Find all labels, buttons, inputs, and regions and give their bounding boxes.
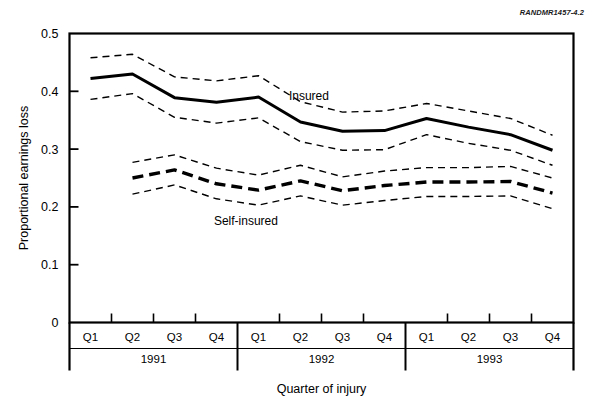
x-quarter-label: Q3: [335, 331, 350, 343]
series-line-self-insured-lower-bound: [133, 185, 553, 209]
y-tick-label: 0: [52, 316, 59, 330]
x-year-label: 1992: [309, 353, 335, 365]
x-quarter-label: Q2: [293, 331, 308, 343]
x-quarter-label: Q3: [167, 331, 182, 343]
series-annotations: InsuredSelf-insured: [214, 89, 329, 228]
y-tick-label: 0.1: [41, 258, 58, 272]
series-annotation: Self-insured: [214, 214, 278, 228]
x-year-label: 1991: [141, 353, 167, 365]
figure-code-label: RANDMR1457-4.2: [520, 8, 584, 17]
x-year-label: 1993: [477, 353, 503, 365]
y-tick-label: 0.5: [41, 27, 58, 41]
y-axis-title: Proportional earnings loss: [17, 106, 31, 251]
series-line-self-insured: [133, 170, 553, 193]
data-series-group: [91, 54, 553, 208]
x-quarter-label: Q3: [503, 331, 518, 343]
x-quarter-label: Q2: [125, 331, 140, 343]
x-quarter-label: Q4: [377, 331, 393, 343]
x-quarter-label: Q4: [209, 331, 225, 343]
x-quarter-label: Q1: [83, 331, 98, 343]
figure-container: RANDMR1457-4.2 00.10.20.30.40.5 Q1Q2Q3Q4…: [0, 0, 594, 399]
x-axis-title: Quarter of injury: [277, 382, 367, 396]
y-tick-label: 0.4: [41, 85, 58, 99]
y-tick-label: 0.3: [41, 143, 58, 157]
earnings-loss-line-chart: 00.10.20.30.40.5 Q1Q2Q3Q4Q1Q2Q3Q4Q1Q2Q3Q…: [0, 0, 594, 399]
y-axis: 00.10.20.30.40.5: [41, 27, 78, 330]
y-tick-label: 0.2: [41, 200, 58, 214]
plot-frame: [70, 34, 574, 323]
plot-border: [70, 34, 574, 323]
series-line-insured: [91, 74, 553, 150]
x-quarter-label: Q1: [419, 331, 434, 343]
series-line-self-insured-upper-bound: [133, 155, 553, 178]
x-quarter-label: Q1: [251, 331, 266, 343]
x-quarter-label: Q2: [461, 331, 476, 343]
series-annotation: Insured: [289, 89, 329, 103]
x-quarter-label: Q4: [545, 331, 561, 343]
